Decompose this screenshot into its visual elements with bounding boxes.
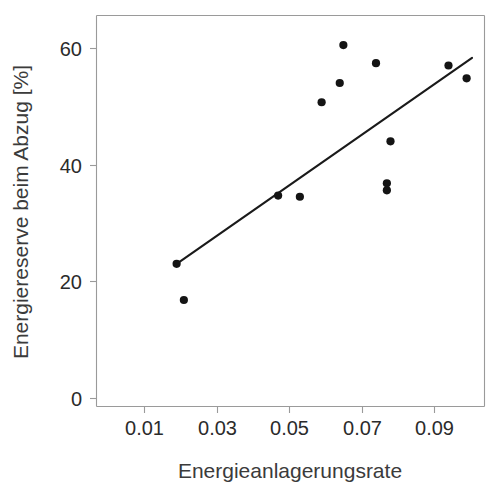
y-axis-title: Energiereserve beim Abzug [%] — [9, 65, 32, 359]
data-point-marker — [296, 193, 304, 201]
data-point-marker — [383, 186, 391, 194]
x-tick-label: 0.01 — [125, 417, 164, 439]
scatter-plot-figure: 0.010.030.050.070.09 0204060 Energieanla… — [0, 0, 494, 491]
data-point-marker — [372, 59, 380, 67]
x-axis-title: Energieanlagerungsrate — [178, 459, 402, 482]
y-tick-label: 60 — [60, 38, 82, 60]
y-tick-label: 0 — [71, 388, 82, 410]
data-point-marker — [444, 61, 452, 69]
x-tick-label: 0.05 — [270, 417, 309, 439]
data-point-marker — [383, 179, 391, 187]
x-tick-label: 0.07 — [343, 417, 382, 439]
data-point-marker — [336, 79, 344, 87]
data-point-marker — [274, 191, 282, 199]
plot-canvas: 0.010.030.050.070.09 0204060 Energieanla… — [0, 0, 494, 491]
data-point-marker — [173, 260, 181, 268]
data-point-marker — [180, 296, 188, 304]
data-point-marker — [386, 137, 394, 145]
data-point-marker — [339, 41, 347, 49]
x-tick-label: 0.03 — [198, 417, 237, 439]
data-point-marker — [463, 74, 471, 82]
y-tick-label: 40 — [60, 155, 82, 177]
data-point-marker — [318, 98, 326, 106]
y-tick-label: 20 — [60, 271, 82, 293]
x-tick-label: 0.09 — [415, 417, 454, 439]
